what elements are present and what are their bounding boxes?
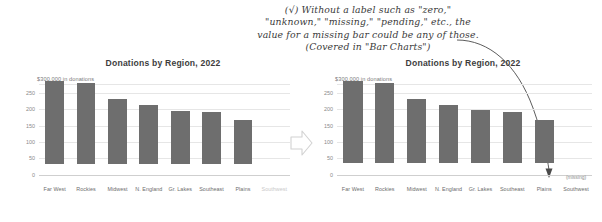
y-axis-right: 250 200 150 100 50 0 <box>312 84 336 182</box>
y-tick-label: 100 <box>26 139 35 145</box>
plot-area-right: 250 200 150 100 50 0 (missing) <box>312 84 596 182</box>
x-axis-label: Far West <box>39 186 70 192</box>
bar-slot[interactable] <box>369 65 401 182</box>
annotation-line-3: value for a missing bar could be any of … <box>208 29 528 41</box>
bar-series-right: (missing) <box>337 84 592 182</box>
x-axis-label: Midwest <box>401 186 433 192</box>
y-tick-label: 50 <box>29 155 35 161</box>
y-tick-label: 150 <box>26 123 35 129</box>
bar-slot[interactable] <box>465 65 497 182</box>
bar[interactable] <box>535 120 554 163</box>
annotation-line-4: (Covered in "Bar Charts") <box>208 41 528 53</box>
x-axis-label: Rockies <box>369 186 401 192</box>
y-tick-label: 0 <box>330 172 333 178</box>
bar[interactable] <box>503 112 522 163</box>
bar-slot[interactable] <box>196 66 227 182</box>
bar-slot[interactable] <box>39 66 70 182</box>
bar[interactable] <box>108 99 127 163</box>
bar[interactable] <box>471 110 490 163</box>
bar[interactable] <box>202 112 221 163</box>
y-axis-left: 250 200 150 100 50 0 <box>14 84 38 182</box>
x-axis-label: N. England <box>433 186 465 192</box>
plot-area-left: 250 200 150 100 50 0 <box>14 84 294 182</box>
x-axis-label: Gr. Lakes <box>165 186 196 192</box>
x-axis-label: Southwest <box>259 186 290 192</box>
bar-slot[interactable] <box>259 66 290 182</box>
y-tick-label: 150 <box>324 123 333 129</box>
bar-slot[interactable] <box>133 66 164 182</box>
x-axis-label: Rockies <box>70 186 101 192</box>
x-axis-label: Southwest <box>560 186 592 192</box>
transform-arrow-icon <box>288 128 314 158</box>
bar-slot[interactable] <box>70 66 101 182</box>
x-axis-label: Southeast <box>496 186 528 192</box>
chart-donations-right: Donations by Region, 2022 $300,000 in do… <box>312 58 596 210</box>
bar[interactable] <box>77 83 96 164</box>
grid-area-right: (missing) <box>337 84 592 182</box>
y-tick-label: 0 <box>32 172 35 178</box>
chart-donations-left: Donations by Region, 2022 $300,000 in do… <box>14 58 294 210</box>
x-axis-label: N. England <box>133 186 164 192</box>
x-axis-label: Plains <box>528 186 560 192</box>
x-axis-label: Midwest <box>102 186 133 192</box>
bar[interactable] <box>407 99 426 163</box>
y-tick-label: 250 <box>324 90 333 96</box>
bar-slot[interactable] <box>496 65 528 182</box>
x-axis-label: Gr. Lakes <box>465 186 497 192</box>
y-tick-label: 50 <box>327 155 333 161</box>
bar[interactable] <box>139 105 158 163</box>
bar[interactable] <box>375 83 394 164</box>
y-tick-label: 200 <box>324 106 333 112</box>
missing-value-note: (missing) <box>566 174 586 180</box>
bar[interactable] <box>234 120 253 163</box>
bar[interactable] <box>171 111 190 164</box>
bar-slot[interactable] <box>227 66 258 182</box>
bar[interactable] <box>45 81 64 163</box>
bar-slot[interactable] <box>528 65 560 182</box>
x-axis-label: Plains <box>227 186 258 192</box>
bar-slot[interactable] <box>433 65 465 182</box>
bar[interactable] <box>439 105 458 163</box>
bar-slot[interactable] <box>102 66 133 182</box>
y-tick-label: 100 <box>324 139 333 145</box>
y-tick-label: 200 <box>26 106 35 112</box>
annotation-line-1: (√) Without a label such as "zero," <box>208 4 528 16</box>
bar-slot[interactable] <box>165 66 196 182</box>
x-axis-labels-right: Far WestRockiesMidwestN. EnglandGr. Lake… <box>337 186 592 192</box>
bar[interactable] <box>343 81 362 163</box>
grid-area-left <box>39 84 290 182</box>
x-axis-label: Far West <box>337 186 369 192</box>
bar-slot[interactable]: (missing) <box>560 65 592 182</box>
x-axis-labels-left: Far WestRockiesMidwestN. EnglandGr. Lake… <box>39 186 290 192</box>
handwritten-annotation: (√) Without a label such as "zero," "unk… <box>208 4 528 54</box>
x-axis-label: Southeast <box>196 186 227 192</box>
bar-series-left <box>39 84 290 182</box>
annotation-line-2: "unknown," "missing," "pending," etc., t… <box>208 16 528 28</box>
bar-slot[interactable] <box>401 65 433 182</box>
y-tick-label: 250 <box>26 90 35 96</box>
bar-slot[interactable] <box>337 65 369 182</box>
